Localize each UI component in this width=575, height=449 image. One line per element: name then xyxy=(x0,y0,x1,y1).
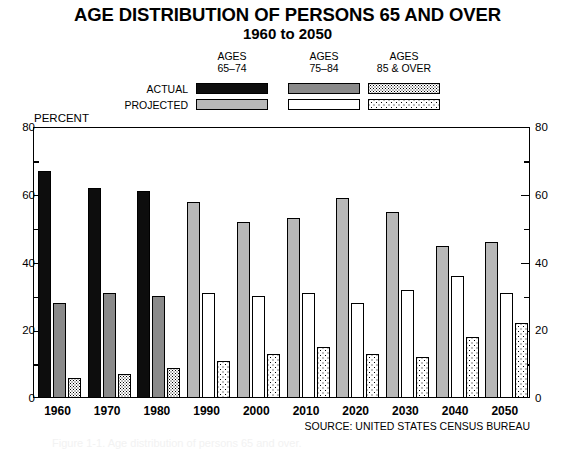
bar-2000-series-3 xyxy=(267,354,280,398)
y-axis-label-left: 80 xyxy=(0,121,35,133)
bar-2000-series-1 xyxy=(237,222,250,398)
bar-group-1960 xyxy=(38,127,81,398)
page-title: AGE DISTRIBUTION OF PERSONS 65 AND OVER xyxy=(0,4,575,25)
bar-1990-series-3 xyxy=(217,361,230,398)
y-axis-label-left: 40 xyxy=(0,257,35,269)
y-axis-label-right: 80 xyxy=(535,121,575,133)
y-axis-label-left: 20 xyxy=(0,324,35,336)
bar-group-2020 xyxy=(336,127,379,398)
bar-1970-series-3 xyxy=(118,374,131,398)
bar-2030-series-3 xyxy=(416,357,429,398)
bar-2050-series-1 xyxy=(485,242,498,398)
bar-1990-series-1 xyxy=(187,202,200,398)
y-axis-label-right: 0 xyxy=(535,392,575,404)
bar-2040-series-3 xyxy=(466,337,479,398)
bar-group-2010 xyxy=(287,127,330,398)
legend-header-line2: 85 & OVER xyxy=(352,62,456,74)
legend-swatch-actual-1 xyxy=(196,83,268,94)
title-block: AGE DISTRIBUTION OF PERSONS 65 AND OVER … xyxy=(0,4,575,43)
legend-row-label-actual: ACTUAL xyxy=(147,83,188,95)
bar-group-1980 xyxy=(137,127,180,398)
bar-1960-series-2 xyxy=(53,303,66,398)
bar-2010-series-1 xyxy=(287,218,300,398)
legend-row-label-projected: PROJECTED xyxy=(124,99,188,111)
legend-column-header-1: AGES65–74 xyxy=(180,50,284,74)
bar-2040-series-2 xyxy=(451,276,464,398)
bar-1980-series-3 xyxy=(167,368,180,398)
bar-group-2030 xyxy=(386,127,429,398)
bar-1970-series-1 xyxy=(88,188,101,398)
bar-2050-series-2 xyxy=(500,293,513,398)
legend-column-header-3: AGES85 & OVER xyxy=(352,50,456,74)
y-axis-label-right: 40 xyxy=(535,257,575,269)
bar-1970-series-2 xyxy=(103,293,116,398)
chart-page: AGE DISTRIBUTION OF PERSONS 65 AND OVER … xyxy=(0,0,575,449)
bar-1980-series-1 xyxy=(137,191,150,398)
bar-2040-series-1 xyxy=(436,246,449,398)
y-axis-label-left: 0 xyxy=(0,392,35,404)
y-axis-label-right: 60 xyxy=(535,189,575,201)
page-subtitle: 1960 to 2050 xyxy=(0,25,575,43)
bar-1980-series-2 xyxy=(152,296,165,398)
y-axis-label-left: 60 xyxy=(0,189,35,201)
bar-group-2040 xyxy=(436,127,479,398)
bar-group-2050 xyxy=(485,127,528,398)
bar-2010-series-3 xyxy=(317,347,330,398)
legend-swatch-actual-3 xyxy=(368,83,440,94)
y-axis-label-right: 20 xyxy=(535,324,575,336)
bar-2020-series-1 xyxy=(336,198,349,398)
bar-2050-series-3 xyxy=(515,323,528,398)
bar-1960-series-1 xyxy=(38,171,51,398)
legend-header-line1: AGES xyxy=(180,50,284,62)
legend-swatch-projected-1 xyxy=(196,99,268,110)
legend-header-line1: AGES xyxy=(352,50,456,62)
legend-header-line2: 65–74 xyxy=(180,62,284,74)
bar-group-2000 xyxy=(237,127,280,398)
x-axis-label-2050: 2050 xyxy=(475,405,535,418)
bar-2030-series-2 xyxy=(401,290,414,398)
bar-2010-series-2 xyxy=(302,293,315,398)
bar-1990-series-2 xyxy=(202,293,215,398)
bar-2020-series-2 xyxy=(351,303,364,398)
legend-swatch-projected-2 xyxy=(288,99,360,110)
bar-2030-series-1 xyxy=(386,212,399,398)
bar-2020-series-3 xyxy=(366,354,379,398)
y-axis-title: PERCENT xyxy=(34,112,89,125)
chart-legend: AGES65–74AGES75–84AGES85 & OVERACTUALPRO… xyxy=(120,50,440,112)
bar-1960-series-3 xyxy=(68,378,81,398)
source-note: SOURCE: UNITED STATES CENSUS BUREAU xyxy=(305,420,530,432)
bar-group-1970 xyxy=(88,127,131,398)
legend-swatch-projected-3 xyxy=(368,99,440,110)
bar-group-1990 xyxy=(187,127,230,398)
bar-2000-series-2 xyxy=(252,296,265,398)
figure-caption-faint: Figure 1-1. Age distribution of persons … xyxy=(52,437,302,449)
legend-swatch-actual-2 xyxy=(288,83,360,94)
